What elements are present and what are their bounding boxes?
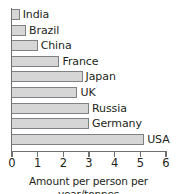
bar-row: Russia [12, 103, 127, 114]
bar-label: Russia [89, 103, 127, 114]
plot-area: IndiaBrazilChinaFranceJapanUKRussiaGerma… [0, 0, 177, 152]
bar-label: UK [77, 87, 95, 98]
bar-label: India [20, 9, 50, 20]
x-axis-tick-label: 0 [8, 157, 15, 169]
x-axis-tick-label: 5 [137, 157, 144, 169]
x-axis-tick-label: 1 [34, 157, 41, 169]
bar-row: India [12, 9, 49, 20]
x-axis-caption: Amount per person per year/tonnes [0, 175, 177, 194]
bar-row: Germany [12, 118, 142, 129]
bar [12, 103, 89, 114]
bar-row: Brazil [12, 25, 59, 36]
bar-row: UK [12, 87, 96, 98]
bar-row: Japan [12, 71, 116, 82]
bar [12, 56, 59, 67]
bar-chart: IndiaBrazilChinaFranceJapanUKRussiaGerma… [0, 0, 177, 194]
x-axis-tick-label: 6 [162, 157, 169, 169]
bar [12, 118, 89, 129]
x-axis-tick-label: 3 [85, 157, 92, 169]
bar-label: France [59, 56, 98, 67]
bar [12, 40, 38, 51]
bar-row: USA [12, 134, 170, 145]
bar [12, 87, 77, 98]
x-axis-tick-label: 2 [60, 157, 67, 169]
bar-label: Brazil [26, 25, 59, 36]
bar-row: China [12, 40, 72, 51]
bar-label: China [38, 40, 72, 51]
bar [12, 71, 83, 82]
bar-row: France [12, 56, 98, 67]
bar-label: Japan [83, 71, 116, 82]
bar-label: Germany [89, 118, 142, 129]
bar [12, 134, 144, 145]
bar [12, 9, 20, 20]
bar-label: USA [144, 134, 169, 145]
bar [12, 25, 26, 36]
x-axis-tick-label: 4 [111, 157, 118, 169]
